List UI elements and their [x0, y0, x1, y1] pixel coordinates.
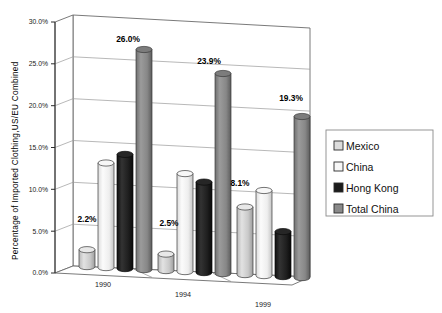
value-label-mexico-1994: 2.5% [159, 218, 179, 228]
bar-hongkong-1990 [117, 151, 133, 271]
value-label-mexico-1999: 8.1% [230, 178, 250, 188]
legend-item-china[interactable]: China [334, 161, 374, 173]
legend-label: Mexico [346, 140, 379, 152]
value-label-totalchina-1990: 26.0% [116, 34, 140, 44]
x-tick-label-1990: 1990 [95, 280, 111, 289]
bar-totalchina-1994 [215, 70, 231, 276]
value-label-mexico-1990: 2.2% [77, 214, 97, 224]
bar-hongkong-1999 [275, 229, 291, 280]
x-tick-label-1999: 1999 [255, 300, 271, 309]
legend-label: Hong Kong [346, 182, 399, 194]
value-label-totalchina-1999: 19.3% [279, 93, 303, 103]
y-tick-label: 10.0% [29, 186, 48, 193]
x-tick-label-1994: 1994 [175, 290, 191, 299]
bar-mexico-1990 [79, 247, 95, 270]
bar-totalchina-1990 [136, 46, 152, 272]
chart-container: 30.0% 25.0% 20.0% 15.0% 10.0% 5.0% 0.0% … [0, 0, 442, 313]
y-axis: 30.0% 25.0% 20.0% 15.0% 10.0% 5.0% 0.0% [29, 18, 55, 276]
bar-china-1999 [256, 187, 272, 278]
bar-totalchina-1999 [294, 113, 310, 280]
legend-label: Total China [346, 203, 399, 215]
bar-mexico-1994 [158, 251, 174, 274]
y-axis-title: Percentage of Imported Clothing,US/EU Co… [11, 61, 20, 260]
y-tick-label: 5.0% [33, 228, 49, 235]
bar-hongkong-1994 [196, 179, 212, 276]
value-label-totalchina-1994: 23.9% [197, 56, 221, 66]
legend-item-mexico[interactable]: Mexico [334, 140, 379, 152]
bar-china-1990 [98, 160, 114, 271]
y-tick-label: 0.0% [33, 269, 49, 276]
y-tick-label: 25.0% [29, 60, 48, 67]
y-tick-label: 20.0% [29, 102, 48, 109]
bar-mexico-1999 [237, 204, 253, 278]
y-tick-label: 30.0% [29, 18, 48, 25]
bar-chart-svg: 30.0% 25.0% 20.0% 15.0% 10.0% 5.0% 0.0% … [0, 0, 442, 313]
y-tick-label: 15.0% [29, 144, 48, 151]
bar-china-1994 [177, 171, 193, 275]
legend-label: China [346, 161, 374, 173]
legend: Mexico China Hong Kong Total China [326, 130, 433, 216]
